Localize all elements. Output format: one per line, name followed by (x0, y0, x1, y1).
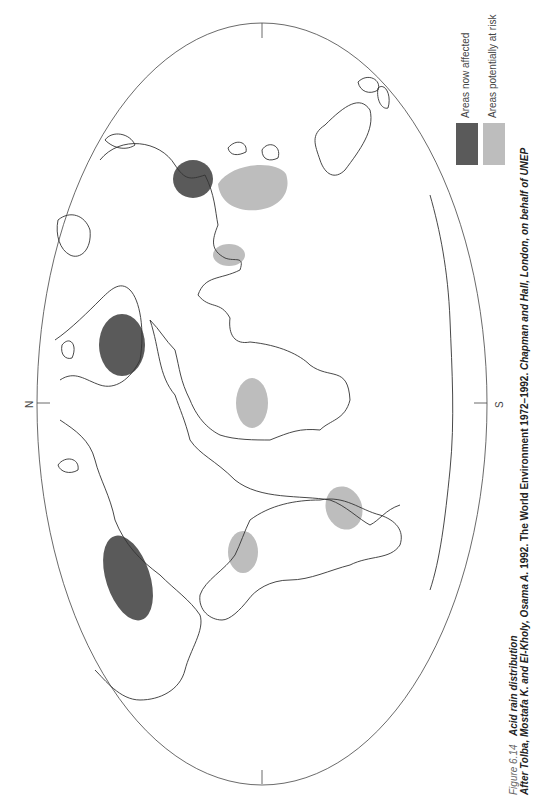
figure-credit: After Tolba, Mostafa K. and El-Kholy, Os… (519, 148, 530, 795)
coast-islands-3 (262, 145, 279, 160)
caption-line-1: Figure 6.14 Acid rain distribution (508, 148, 519, 795)
coast-islands-2 (228, 142, 246, 154)
world-map (0, 0, 540, 810)
coast-new-zealand (358, 77, 379, 92)
coast-nz-2 (378, 86, 390, 108)
figure-caption: Figure 6.14 Acid rain distribution After… (508, 148, 530, 795)
north-label: N (24, 401, 35, 408)
south-label: S (494, 401, 505, 408)
coast-africa (150, 320, 400, 525)
legend-swatch-at-risk (483, 123, 505, 165)
coast-iceland (58, 459, 78, 473)
legend-swatch-affected (456, 123, 478, 165)
coast-australia (315, 103, 371, 175)
coast-antarctica (430, 195, 453, 590)
at-risk-zones (213, 165, 368, 573)
figure-title: Acid rain distribution (508, 636, 519, 737)
zone-europe (99, 314, 145, 376)
credit-authors: After Tolba, Mostafa K. and El-Kholy, Os… (519, 572, 530, 795)
coast-uk (62, 341, 74, 359)
affected-zones (93, 160, 213, 627)
credit-publisher: Chapman and Hall, London, on behalf of U… (519, 148, 530, 370)
legend-label-at-risk: Areas potentially at risk (487, 15, 498, 118)
zone-se-asia (218, 165, 288, 210)
figure-number: Figure 6.14 (508, 744, 519, 795)
zone-central-africa (236, 378, 268, 428)
coast-greenland (57, 215, 90, 256)
legend-label-affected: Areas now affected (460, 33, 471, 118)
credit-book: 1992. The World Environment 1972–1992. (519, 370, 530, 572)
zone-india (213, 244, 245, 266)
